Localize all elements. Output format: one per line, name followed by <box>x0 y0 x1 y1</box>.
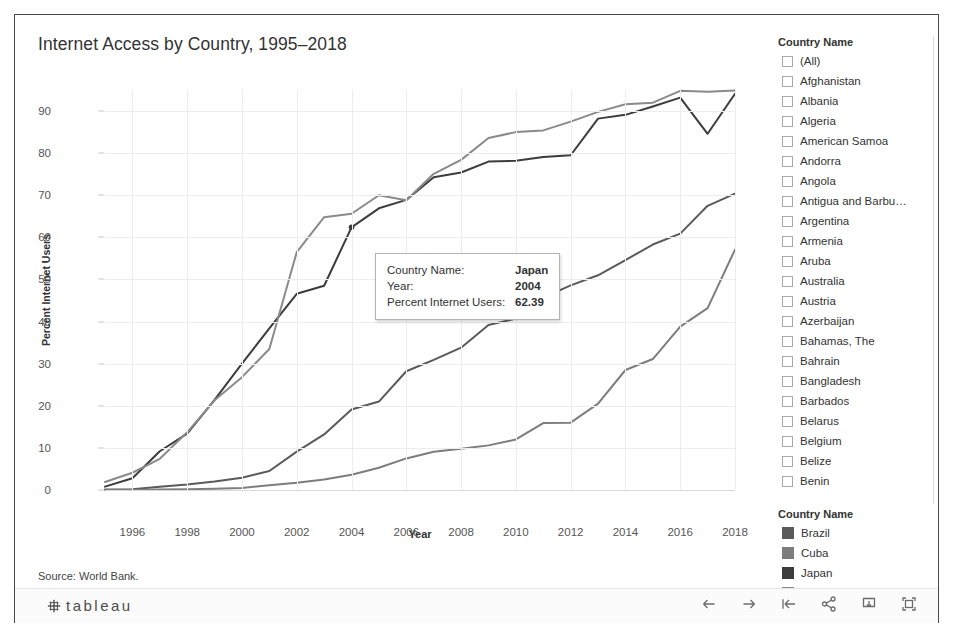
zero-baseline <box>105 490 735 491</box>
filter-item[interactable]: Australia <box>778 271 926 291</box>
country-filter-list[interactable]: (All)AfghanistanAlbaniaAlgeriaAmerican S… <box>778 51 926 492</box>
filter-item[interactable]: Bermuda <box>778 491 926 492</box>
filter-item-label: Austria <box>800 295 836 307</box>
filter-item-label: American Samoa <box>800 135 888 147</box>
filter-item[interactable]: Belize <box>778 451 926 471</box>
filter-item[interactable]: Argentina <box>778 211 926 231</box>
y-axis-tick-mark <box>98 321 104 322</box>
checkbox-icon[interactable] <box>782 336 793 347</box>
filter-item[interactable]: Benin <box>778 471 926 491</box>
share-icon[interactable] <box>820 595 838 613</box>
y-axis-tick-mark <box>98 153 104 154</box>
gridline-vertical <box>242 90 243 490</box>
x-axis-tick-label: 2008 <box>448 526 474 538</box>
legend-item[interactable]: Brazil <box>778 523 926 543</box>
filter-item-label: Belize <box>800 455 831 467</box>
filter-item-label: Angola <box>800 175 836 187</box>
checkbox-icon[interactable] <box>782 216 793 227</box>
legend-item-label: Cuba <box>801 547 829 559</box>
tooltip: Country Name: Japan Year: 2004 Percent I… <box>375 253 560 320</box>
filter-item-label: Afghanistan <box>800 75 861 87</box>
checkbox-icon[interactable] <box>782 436 793 447</box>
filter-item[interactable]: Afghanistan <box>778 71 926 91</box>
checkbox-icon[interactable] <box>782 416 793 427</box>
source-caption: Source: World Bank. <box>38 570 139 582</box>
filter-item-label: Antigua and Barbu… <box>800 195 907 207</box>
filter-item[interactable]: Armenia <box>778 231 926 251</box>
filter-item[interactable]: Azerbaijan <box>778 311 926 331</box>
gridline-vertical <box>680 90 681 490</box>
legend-item-label: Japan <box>801 567 832 579</box>
legend-color-swatch <box>782 527 794 539</box>
gridline-horizontal <box>105 237 735 238</box>
tableau-logo[interactable]: tableau <box>47 597 133 614</box>
gridline-horizontal <box>105 364 735 365</box>
checkbox-icon[interactable] <box>782 376 793 387</box>
bottom-toolbar: tableau <box>15 588 938 623</box>
checkbox-icon[interactable] <box>782 156 793 167</box>
filter-item[interactable]: Angola <box>778 171 926 191</box>
legend-color-swatch <box>782 567 794 579</box>
x-axis-tick-label: 2014 <box>613 526 639 538</box>
tooltip-row: Year: 2004 <box>387 278 548 294</box>
checkbox-icon[interactable] <box>782 356 793 367</box>
checkbox-icon[interactable] <box>782 56 793 67</box>
checkbox-icon[interactable] <box>782 176 793 187</box>
checkbox-icon[interactable] <box>782 296 793 307</box>
checkbox-icon[interactable] <box>782 476 793 487</box>
tooltip-label: Year: <box>387 278 509 294</box>
checkbox-icon[interactable] <box>782 276 793 287</box>
filter-item[interactable]: Albania <box>778 91 926 111</box>
checkbox-icon[interactable] <box>782 456 793 467</box>
fullscreen-icon[interactable] <box>900 595 918 613</box>
gridline-vertical <box>571 90 572 490</box>
y-axis-tick-label: 0 <box>0 484 51 496</box>
y-axis-tick-label: 60 <box>0 231 51 243</box>
checkbox-icon[interactable] <box>782 136 793 147</box>
filter-item[interactable]: American Samoa <box>778 131 926 151</box>
legend-item-label: Brazil <box>801 527 830 539</box>
legend-title: Country Name <box>778 508 926 520</box>
legend-item[interactable]: Japan <box>778 563 926 583</box>
checkbox-icon[interactable] <box>782 256 793 267</box>
revert-icon[interactable] <box>780 595 798 613</box>
tableau-logo-text: tableau <box>66 597 133 614</box>
legend-item[interactable]: Cuba <box>778 543 926 563</box>
y-axis-tick-mark <box>98 447 104 448</box>
checkbox-icon[interactable] <box>782 116 793 127</box>
gridline-horizontal <box>105 111 735 112</box>
checkbox-icon[interactable] <box>782 196 793 207</box>
filter-item[interactable]: Aruba <box>778 251 926 271</box>
back-arrow-icon[interactable] <box>700 595 718 613</box>
y-axis-tick-label: 10 <box>0 442 51 454</box>
checkbox-icon[interactable] <box>782 76 793 87</box>
checkbox-icon[interactable] <box>782 96 793 107</box>
filter-item[interactable]: Belarus <box>778 411 926 431</box>
checkbox-icon[interactable] <box>782 316 793 327</box>
filter-item[interactable]: Austria <box>778 291 926 311</box>
filter-item-label: Barbados <box>800 395 849 407</box>
filter-item[interactable]: Bahrain <box>778 351 926 371</box>
download-icon[interactable] <box>860 595 878 613</box>
gridline-vertical <box>352 90 353 490</box>
checkbox-icon[interactable] <box>782 396 793 407</box>
y-axis-tick-mark <box>98 111 104 112</box>
y-axis-tick-label: 40 <box>0 316 51 328</box>
gridline-vertical <box>735 90 736 490</box>
checkbox-icon[interactable] <box>782 236 793 247</box>
filter-item[interactable]: Antigua and Barbu… <box>778 191 926 211</box>
filter-item[interactable]: Bahamas, The <box>778 331 926 351</box>
gridline-horizontal <box>105 153 735 154</box>
x-axis-tick-label: 2012 <box>558 526 584 538</box>
filter-item-label: Benin <box>800 475 829 487</box>
filter-item-label: Bangladesh <box>800 375 861 387</box>
y-axis-tick-label: 20 <box>0 400 51 412</box>
filter-item[interactable]: Bangladesh <box>778 371 926 391</box>
filter-item[interactable]: Andorra <box>778 151 926 171</box>
filter-item[interactable]: Belgium <box>778 431 926 451</box>
filter-item[interactable]: Barbados <box>778 391 926 411</box>
filter-item[interactable]: Algeria <box>778 111 926 131</box>
filter-item-label: Armenia <box>800 235 843 247</box>
filter-item[interactable]: (All) <box>778 51 926 71</box>
forward-arrow-icon[interactable] <box>740 595 758 613</box>
